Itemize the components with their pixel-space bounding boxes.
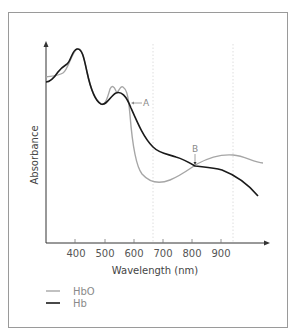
- x-tick-label: 400: [66, 248, 85, 259]
- y-axis-arrow-icon: [44, 41, 49, 47]
- x-tick-label: 700: [153, 248, 172, 259]
- hbo-curve: [46, 49, 263, 182]
- legend-hb-label: Hb: [73, 298, 87, 309]
- annotation-b-label: B: [192, 144, 198, 154]
- x-tick-label: 500: [95, 248, 114, 259]
- x-axis-label: Wavelength (nm): [112, 265, 198, 276]
- x-ticks: [75, 239, 221, 243]
- x-tick-label: 900: [211, 248, 230, 259]
- x-axis-arrow-icon: [264, 241, 270, 246]
- x-tick-label: 800: [182, 248, 201, 259]
- annotation-a-label: A: [143, 98, 150, 108]
- legend-hbo-label: HbO: [73, 286, 95, 297]
- annotation-a-arrow-icon: [131, 102, 134, 105]
- x-tick-label: 600: [124, 248, 143, 259]
- absorbance-chart: 400 500 600 700 800 900 Wavelength (nm) …: [0, 0, 301, 334]
- legend: HbO Hb: [46, 286, 95, 309]
- y-axis-label: Absorbance: [29, 125, 40, 184]
- hb-curve: [46, 49, 258, 196]
